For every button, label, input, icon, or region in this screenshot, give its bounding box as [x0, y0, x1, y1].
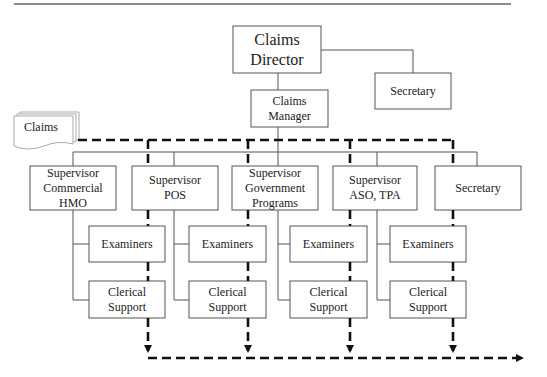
- supervisor-pos-label: Supervisor POS: [132, 166, 218, 210]
- examiners-label-1: Examiners: [89, 226, 165, 262]
- claims-manager-label: Claims Manager: [251, 90, 328, 127]
- claims-input-label: Claims: [14, 113, 68, 141]
- claims-output-flow: [148, 318, 522, 358]
- examiners-label-3: Examiners: [290, 226, 367, 262]
- examiners-label-2: Examiners: [189, 226, 266, 262]
- director-secretary-label: Secretary: [375, 73, 451, 109]
- clerical-label-3: Clerical Support: [290, 281, 367, 318]
- supervisor-gov-label: Supervisor Government Programs: [232, 166, 318, 210]
- clerical-label-1: Clerical Support: [89, 281, 165, 318]
- supervisor-hmo-label: Supervisor Commercial HMO: [30, 166, 116, 210]
- supervisor-aso-label: Supervisor ASO, TPA: [333, 166, 417, 210]
- claims-director-label: Claims Director: [233, 26, 321, 73]
- examiners-label-4: Examiners: [390, 226, 466, 262]
- clerical-label-4: Clerical Support: [390, 281, 466, 318]
- clerical-label-2: Clerical Support: [189, 281, 266, 318]
- secretary-label: Secretary: [435, 166, 521, 210]
